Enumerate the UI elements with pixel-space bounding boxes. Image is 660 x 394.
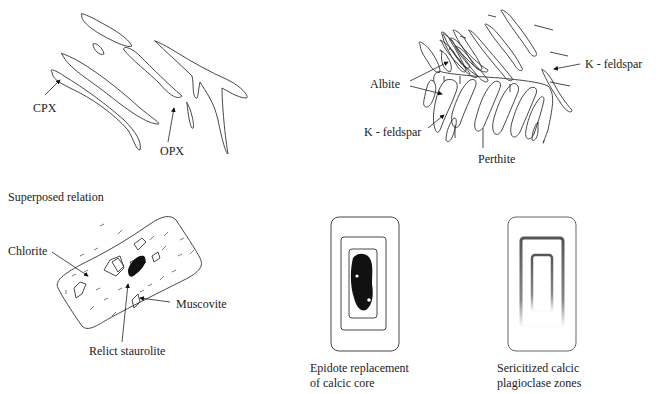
muscovite-label: Muscovite bbox=[176, 297, 227, 311]
epidote-caption-2: of calcic core bbox=[310, 376, 375, 390]
sericitized-caption-1: Sericitized calcic bbox=[497, 361, 579, 375]
perthite-lamellae bbox=[419, 10, 572, 148]
relict-staurolite-label: Relict staurolite bbox=[89, 344, 165, 358]
pyroxene-lamellae bbox=[51, 14, 247, 154]
superposed-heading: Superposed relation bbox=[8, 190, 104, 204]
opx-label: OPX bbox=[160, 144, 184, 158]
albite-label: Albite bbox=[370, 77, 400, 91]
sericitized-caption-2: plagioclase zones bbox=[497, 376, 581, 390]
kfeldspar-right-label: K - feldspar bbox=[585, 57, 642, 71]
cpx-label: CPX bbox=[33, 101, 56, 115]
epidote-caption-1: Epidote replacement bbox=[310, 361, 409, 375]
staurolite-relict bbox=[128, 256, 146, 277]
perthite-label: Perthite bbox=[478, 152, 515, 166]
epidote-core bbox=[351, 254, 373, 311]
kfeldspar-left-label: K - feldspar bbox=[364, 125, 421, 139]
chlorite-label: Chlorite bbox=[8, 244, 47, 258]
sericitized-crystal bbox=[508, 217, 576, 351]
